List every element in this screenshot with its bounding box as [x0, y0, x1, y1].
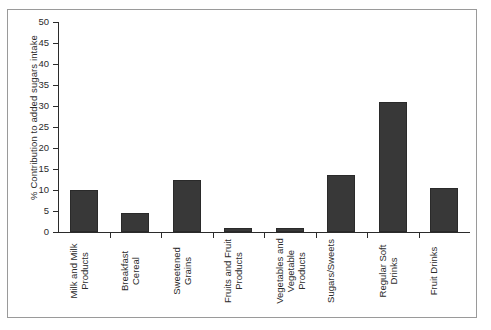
- y-tick-label: 50: [23, 17, 49, 27]
- bar: [173, 180, 201, 233]
- bar: [379, 102, 407, 232]
- x-axis-category-label: Breakfast Cereal: [119, 232, 141, 310]
- y-tick-mark: [53, 148, 58, 149]
- x-tick-mark: [419, 233, 420, 238]
- y-tick-mark: [53, 43, 58, 44]
- y-tick-label: 25: [23, 122, 49, 132]
- y-tick-label: 5: [23, 206, 49, 216]
- x-tick-mark: [367, 233, 368, 238]
- y-tick-mark: [53, 106, 58, 107]
- x-axis-category-label: Fruits and Fruit Products: [222, 232, 244, 310]
- y-tick-label: 20: [23, 143, 49, 153]
- chart-figure: % Contribution to added sugars intake 05…: [0, 0, 491, 330]
- y-tick-label: 30: [23, 101, 49, 111]
- x-tick-mark: [161, 233, 162, 238]
- y-tick-mark: [53, 190, 58, 191]
- y-tick-label: 10: [23, 185, 49, 195]
- bar: [121, 213, 149, 232]
- x-tick-mark: [264, 233, 265, 238]
- bar: [70, 190, 98, 232]
- y-tick-mark: [53, 232, 58, 233]
- x-axis-category-label: Vegetables and Vegetable Products: [274, 232, 307, 310]
- x-axis-category-label: Sugars/Sweets: [325, 232, 336, 310]
- x-tick-mark: [213, 233, 214, 238]
- y-tick-mark: [53, 22, 58, 23]
- x-axis-category-label: Milk and Milk Products: [68, 232, 90, 310]
- y-tick-mark: [53, 127, 58, 128]
- bar: [327, 175, 355, 232]
- y-tick-mark: [53, 211, 58, 212]
- y-tick-label: 0: [23, 227, 49, 237]
- y-tick-mark: [53, 85, 58, 86]
- y-axis-line: [58, 22, 59, 233]
- x-axis-category-label: Fruit Drinks: [428, 232, 439, 310]
- y-tick-label: 40: [23, 59, 49, 69]
- x-tick-mark: [110, 233, 111, 238]
- y-tick-label: 15: [23, 164, 49, 174]
- bar: [430, 188, 458, 232]
- y-tick-mark: [53, 169, 58, 170]
- y-tick-mark: [53, 64, 58, 65]
- x-axis-category-label: Sweetened Grains: [171, 232, 193, 310]
- x-tick-mark: [316, 233, 317, 238]
- y-tick-label: 45: [23, 38, 49, 48]
- y-tick-label: 35: [23, 80, 49, 90]
- x-axis-category-label: Regular Soft Drinks: [377, 232, 399, 310]
